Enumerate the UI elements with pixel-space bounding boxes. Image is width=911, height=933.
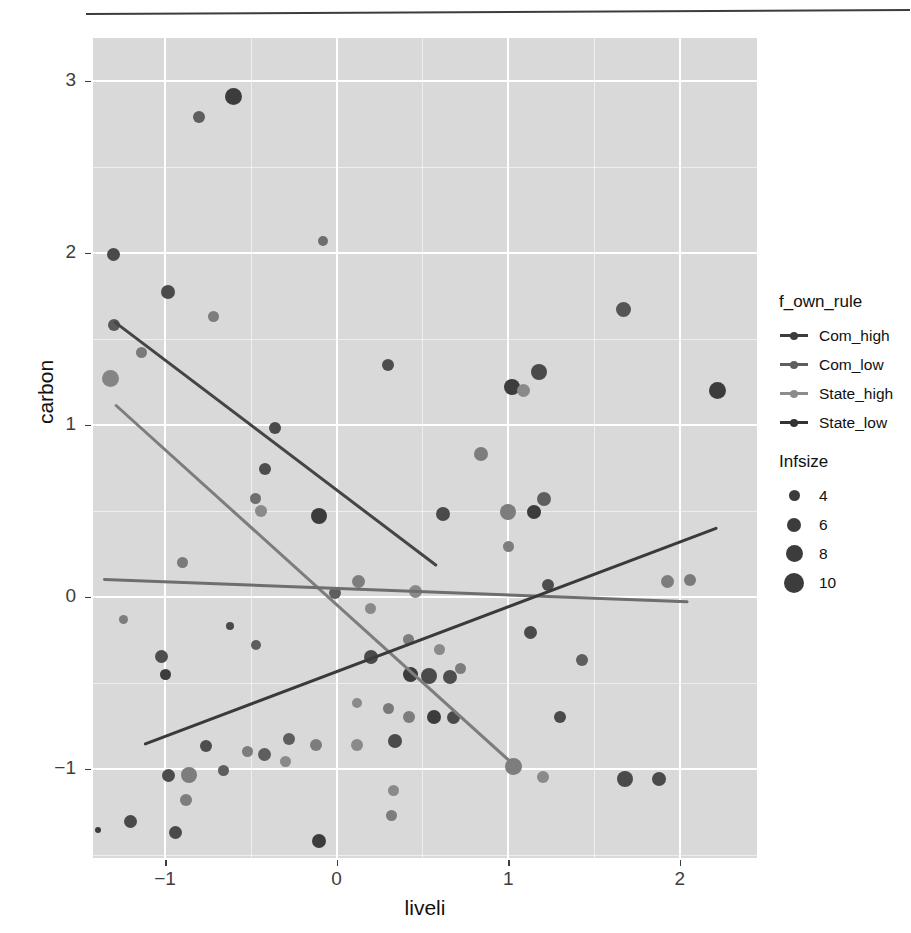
y-axis-tick	[85, 253, 91, 255]
scatter-point	[251, 640, 261, 650]
scatter-point	[258, 748, 271, 761]
gridline-horizontal	[93, 596, 757, 598]
scatter-point	[208, 311, 219, 322]
gridline-horizontal-minor	[93, 511, 757, 512]
legend-size-key	[779, 541, 809, 567]
scatter-point	[554, 711, 566, 723]
scatter-point	[652, 772, 666, 786]
gridline-horizontal	[93, 252, 757, 254]
scatter-point	[250, 493, 261, 504]
scatter-point	[617, 771, 633, 787]
scatter-point	[311, 508, 327, 524]
scatter-point	[709, 382, 726, 399]
y-axis-tick-label: 0	[42, 585, 76, 607]
scatter-point	[181, 767, 197, 783]
scatter-point	[403, 711, 415, 723]
scatter-point	[388, 785, 399, 796]
legend-key-dot	[790, 361, 798, 369]
scatter-point	[527, 505, 541, 519]
scatter-point	[162, 769, 175, 782]
x-axis-tick-label: −1	[145, 868, 185, 890]
x-axis-tick-label: 2	[660, 868, 700, 890]
color-legend-item[interactable]: State_low	[779, 408, 893, 437]
regression-line	[103, 578, 688, 603]
size-legend-rows: 46810	[779, 481, 836, 597]
gridline-horizontal	[93, 424, 757, 426]
scatter-point	[169, 826, 182, 839]
size-legend-title: Infsize	[779, 452, 836, 472]
scatter-point	[474, 447, 488, 461]
size-legend-item[interactable]: 4	[779, 481, 836, 510]
y-axis-tick-label: −1	[42, 757, 76, 779]
legend-size-key	[779, 512, 809, 538]
scatter-point	[280, 756, 291, 767]
legend-key-dot	[790, 390, 798, 398]
scatter-point	[365, 603, 376, 614]
scatter-point	[318, 236, 328, 246]
x-axis-tick	[680, 860, 682, 866]
gridline-vertical	[507, 38, 509, 858]
legend-size-key	[779, 570, 809, 596]
scatter-point	[160, 669, 171, 680]
x-axis-tick-label: 1	[488, 868, 528, 890]
scatter-point	[537, 771, 549, 783]
scatter-point	[616, 302, 631, 317]
scatter-point	[382, 359, 394, 371]
y-axis-tick-label: 3	[42, 69, 76, 91]
size-legend-item[interactable]: 10	[779, 568, 836, 597]
color-legend-item[interactable]: Com_high	[779, 321, 893, 350]
legend-key-line-point	[779, 411, 809, 435]
size-legend-item[interactable]: 6	[779, 510, 836, 539]
scatter-point	[136, 347, 147, 358]
scatter-point	[193, 111, 205, 123]
x-axis-title: liveli	[0, 896, 850, 920]
scatter-point	[388, 734, 402, 748]
y-axis-tick	[85, 425, 91, 427]
scatter-point	[537, 492, 551, 506]
scatter-point	[310, 739, 322, 751]
y-axis-tick	[85, 597, 91, 599]
scatter-point	[218, 765, 229, 776]
gridline-horizontal	[93, 80, 757, 82]
scatter-point	[684, 574, 696, 586]
scatter-point	[161, 285, 175, 299]
color-legend-title: f_own_rule	[779, 292, 893, 312]
legend-size-dot	[784, 573, 804, 593]
chart-root: −1012−10123 liveli carbon f_own_rule Com…	[0, 0, 911, 933]
scatter-point	[200, 740, 212, 752]
scatter-point	[259, 463, 271, 475]
gridline-vertical	[679, 38, 681, 858]
scatter-point	[351, 739, 363, 751]
color-legend-item[interactable]: Com_low	[779, 350, 893, 379]
size-legend-item[interactable]: 8	[779, 539, 836, 568]
scatter-point	[517, 384, 530, 397]
legend-key-dot	[790, 332, 798, 340]
gridline-vertical-minor	[422, 38, 423, 858]
scatter-point	[226, 622, 234, 630]
scatter-point	[180, 794, 192, 806]
legend-size-dot	[789, 490, 800, 501]
gridline-horizontal-minor	[93, 339, 757, 340]
scatter-point	[531, 364, 547, 380]
y-axis-tick	[85, 81, 91, 83]
legend-key-dot	[790, 419, 798, 427]
scatter-point	[107, 248, 120, 261]
scatter-point	[455, 663, 466, 674]
gridline-vertical-minor	[251, 38, 252, 858]
scatter-point	[386, 810, 397, 821]
gridline-vertical	[336, 38, 338, 858]
gridline-vertical-minor	[594, 38, 595, 858]
scatter-point	[434, 644, 445, 655]
scatter-point	[524, 626, 537, 639]
scatter-point	[576, 654, 588, 666]
color-legend-item-label: Com_high	[819, 327, 890, 345]
color-legend-item[interactable]: State_high	[779, 379, 893, 408]
page-top-rule	[86, 9, 910, 15]
gridline-horizontal-minor	[93, 855, 757, 856]
size-legend-item-label: 4	[819, 487, 828, 505]
color-legend-item-label: State_high	[819, 385, 893, 403]
x-axis-tick	[508, 860, 510, 866]
x-axis-tick	[165, 860, 167, 866]
scatter-point	[255, 505, 267, 517]
y-axis-title: carbon	[34, 332, 58, 452]
